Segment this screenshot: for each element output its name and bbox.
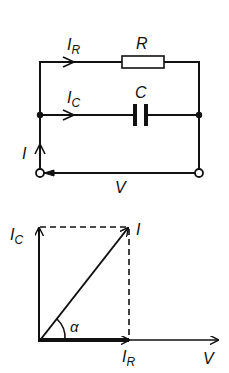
- label-v: V: [115, 179, 127, 196]
- parallel-rc-diagram: IR R IC C I V IC I α IR V: [0, 0, 229, 373]
- circuit: [35, 56, 199, 176]
- resistor-branch-wire: [40, 62, 122, 115]
- junction-right: [196, 112, 202, 118]
- junction-left: [37, 112, 43, 118]
- label-alpha: α: [70, 318, 79, 335]
- phasor-diagram: [38, 227, 218, 341]
- label-phasor-i: I: [136, 221, 141, 238]
- label-i: I: [22, 145, 27, 162]
- v-arrow-head: [44, 170, 54, 176]
- terminal-left: [36, 169, 44, 177]
- label-ic: IC: [67, 89, 80, 110]
- resistor-symbol: [122, 56, 164, 68]
- terminal-right: [195, 169, 203, 177]
- label-ir: IR: [67, 36, 80, 57]
- resistor-branch-wire-right: [164, 62, 199, 115]
- label-c: C: [135, 84, 147, 101]
- label-phasor-v: V: [203, 350, 215, 367]
- label-phasor-ir: IR: [122, 348, 135, 369]
- i-phasor: [41, 228, 128, 339]
- label-r: R: [136, 35, 148, 52]
- label-phasor-ic: IC: [10, 226, 23, 247]
- angle-arc: [57, 319, 65, 340]
